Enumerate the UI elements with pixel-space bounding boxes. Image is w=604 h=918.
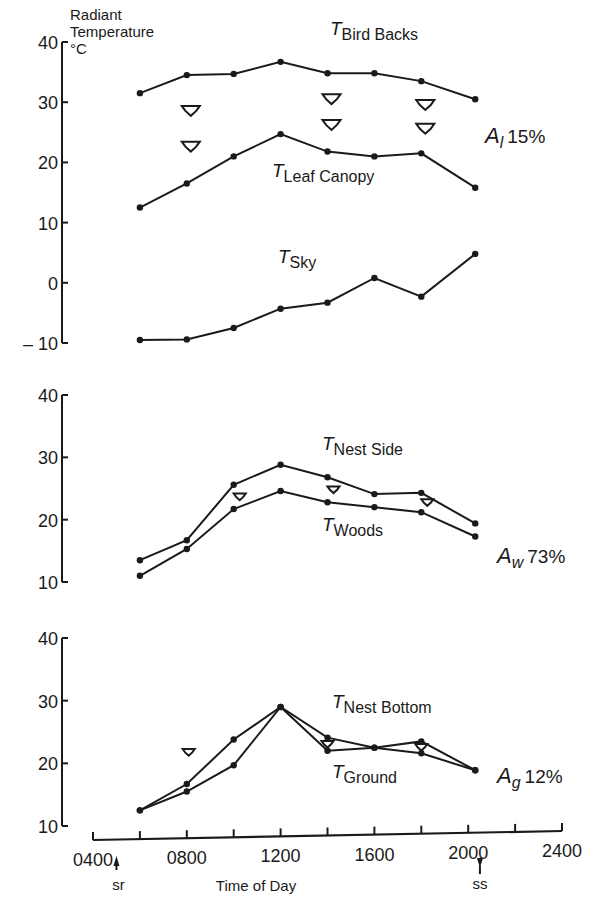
data-point [184, 781, 190, 787]
data-point [184, 788, 190, 794]
data-point [324, 734, 330, 740]
data-point [277, 462, 283, 468]
x-tick-label: 2400 [542, 841, 582, 861]
y-tick-label: 40 [38, 629, 58, 649]
down-arrow-icon [416, 124, 434, 134]
x-tick-label: 1600 [354, 845, 394, 865]
albedo-annotation: Al15% [483, 123, 545, 151]
data-point [277, 305, 283, 311]
data-point [324, 148, 330, 154]
sunset-label: ss [472, 875, 487, 892]
data-point [472, 184, 478, 190]
down-arrow-icon [416, 100, 434, 110]
series-label: TSky [278, 246, 316, 271]
panel-bottom: 40302010TNest BottomTGroundAg12% [38, 629, 563, 837]
y-tick-label: 30 [38, 448, 58, 468]
sunrise-label: sr [112, 876, 125, 893]
data-point [184, 72, 190, 78]
x-tick-label: 0800 [167, 848, 207, 868]
data-point [137, 557, 143, 563]
y-tick-label: 10 [38, 214, 58, 234]
y-tick-label: 30 [38, 692, 58, 712]
data-point [472, 767, 478, 773]
data-point [371, 153, 377, 159]
x-tick-label: 0400 [73, 850, 113, 870]
y-tick-label: 40 [38, 33, 58, 53]
down-arrow-icon [323, 120, 341, 130]
data-point [184, 546, 190, 552]
data-point [472, 96, 478, 102]
data-point [418, 150, 424, 156]
x-axis-title: Time of Day [216, 877, 297, 894]
data-point [371, 491, 377, 497]
down-arrow-icon [182, 106, 200, 116]
series-t-bird-backs [137, 59, 479, 103]
series-t-nest-bottom [137, 704, 479, 814]
y-axis-title: °C [70, 40, 87, 57]
data-point [184, 336, 190, 342]
data-point [371, 504, 377, 510]
data-point [324, 474, 330, 480]
data-point [277, 488, 283, 494]
albedo-annotation: Ag12% [495, 763, 563, 791]
y-tick-label: 20 [38, 153, 58, 173]
data-point [231, 153, 237, 159]
data-point [231, 71, 237, 77]
data-point [371, 70, 377, 76]
data-point [472, 251, 478, 257]
data-point [324, 499, 330, 505]
y-axis-title: Radiant [70, 6, 123, 23]
data-point [184, 537, 190, 543]
series-label: TBird Backs [330, 18, 418, 43]
data-point [472, 520, 478, 526]
y-tick-label: 30 [38, 93, 58, 113]
series-t-ground [137, 704, 479, 814]
data-point [231, 482, 237, 488]
down-arrow-icon [183, 749, 195, 756]
y-tick-label: 20 [38, 754, 58, 774]
series-label: TNest Side [322, 433, 403, 458]
panel-top: 403020100– 10RadiantTemperature°CTBird B… [23, 6, 545, 354]
down-arrow-icon [182, 142, 200, 152]
series-label: TNest Bottom [332, 691, 432, 716]
data-point [277, 59, 283, 65]
y-tick-label: 10 [38, 573, 58, 593]
data-point [137, 337, 143, 343]
down-arrow-icon [328, 486, 340, 493]
y-tick-label: 10 [38, 817, 58, 837]
data-point [184, 180, 190, 186]
data-point [418, 509, 424, 515]
data-point [277, 131, 283, 137]
y-axis-title: Temperature [70, 23, 154, 40]
x-tick-label: 1200 [261, 846, 301, 866]
data-point [371, 744, 377, 750]
data-point [324, 70, 330, 76]
series-label: TWoods [322, 514, 383, 539]
data-point [324, 299, 330, 305]
data-point [231, 506, 237, 512]
data-point [472, 533, 478, 539]
down-arrow-icon [234, 494, 246, 501]
data-point [418, 293, 424, 299]
radiant-temperature-chart: 403020100– 10RadiantTemperature°CTBird B… [0, 0, 604, 918]
albedo-annotation: Aw73% [495, 543, 565, 571]
data-point [231, 762, 237, 768]
y-tick-label: 0 [48, 274, 58, 294]
data-point [137, 90, 143, 96]
down-arrow-icon [421, 499, 433, 506]
down-arrow-icon [415, 744, 427, 751]
data-point [231, 736, 237, 742]
series-label: TLeaf Canopy [272, 160, 374, 185]
y-tick-label: 40 [38, 386, 58, 406]
y-tick-label: 20 [38, 511, 58, 531]
time-of-day-axis: 040008001200160020002400Time of Daysrss [73, 823, 582, 894]
data-point [277, 704, 283, 710]
series-label: TGround [332, 761, 397, 786]
y-tick-label: – 10 [23, 334, 58, 354]
data-point [371, 275, 377, 281]
data-point [418, 490, 424, 496]
data-point [137, 573, 143, 579]
data-point [137, 807, 143, 813]
down-arrow-icon [323, 94, 341, 104]
data-point [418, 78, 424, 84]
